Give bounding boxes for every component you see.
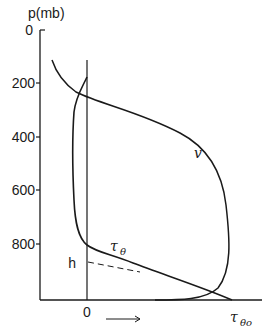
svg-text:θ: θ [120,246,126,257]
y-tick-label-600: 600 [12,182,36,198]
svg-text:τ: τ [230,309,238,325]
h-label: h [68,255,76,271]
tau-theta-curve [73,77,232,300]
y-axis-title: p(mb) [28,5,65,21]
chart: 0 200 400 600 800 p(mb) 0 v τ θ h τ θo [0,0,266,330]
x-direction-arrow-icon [106,316,140,322]
svg-text:θo: θo [240,317,252,328]
tau-theta0-label: τ θo [230,309,252,328]
y-tick-label-400: 400 [12,129,36,145]
y-tick-label-800: 800 [12,236,36,252]
svg-text:τ: τ [110,238,118,254]
y-tick-label-0: 0 [25,22,33,38]
tau-theta-label: τ θ [110,238,126,257]
x-zero-label: 0 [83,304,91,320]
y-tick-label-200: 200 [12,75,36,91]
v-label: v [194,145,202,161]
